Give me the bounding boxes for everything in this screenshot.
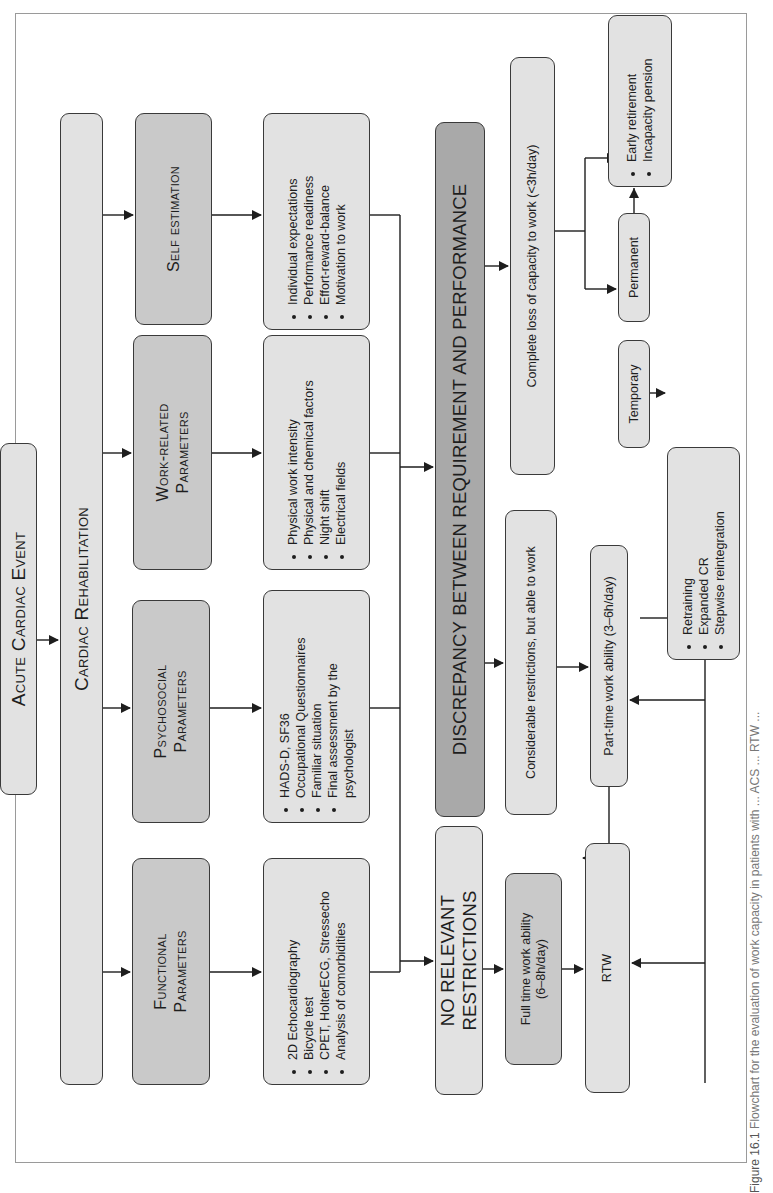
cardiac-rehabilitation-box: Cardiac Rehabilitation xyxy=(60,113,103,1085)
permanent-box: Permanent xyxy=(618,213,650,322)
list-item: Physical work intensity xyxy=(285,380,301,545)
list-item: Stepwise reintegration xyxy=(712,511,728,635)
reintegration-list: Retraining Expanded CR Stepwise reintegr… xyxy=(680,511,728,649)
no-relevant-restrictions-box: No relevant restrictions xyxy=(435,826,483,1095)
work-related-parameters-box: Work-related Parameters xyxy=(133,335,212,570)
flowchart-stage: Acute Cardiac Event Cardiac Rehabilitati… xyxy=(0,0,773,1193)
list-item: Bicycle test xyxy=(301,891,317,1060)
part-time-work-ability-box: Part-time work ability (3–6h/day) xyxy=(590,545,628,787)
discrepancy-box: Discrepancy between requirement and perf… xyxy=(435,122,485,817)
complete-loss-box: Complete loss of capacity to work (<3h/d… xyxy=(510,57,555,475)
list-item: HADS-D, SF36 xyxy=(277,591,293,798)
list-item: Early retirement xyxy=(624,58,640,162)
self-estimation-list-box: Individual expectations Performance read… xyxy=(263,113,370,330)
functional-title-line2: Parameters xyxy=(171,930,191,1012)
psychosocial-title-line2: Parameters xyxy=(171,670,191,752)
figure-label: Figure 16.1 xyxy=(748,1132,762,1193)
list-item: 2D Echocardiography xyxy=(285,891,301,1060)
psychosocial-list-box: HADS-D, SF36 Occupational Questionnaires… xyxy=(263,590,370,823)
list-item: Effort-reward-balance xyxy=(317,176,333,305)
work-related-list-box: Physical work intensity Physical and che… xyxy=(263,335,370,570)
full-time-line1: Full time work ability xyxy=(519,913,534,1026)
functional-list: 2D Echocardiography Bicycle test CPET, H… xyxy=(285,891,349,1074)
list-item: Individual expectations xyxy=(285,176,301,305)
list-item: Performance readiness xyxy=(301,176,317,305)
self-estimation-box: Self estimation xyxy=(135,113,212,325)
figure-caption: Figure 16.1 Flowchart for the evaluation… xyxy=(748,0,762,1193)
list-item: Retraining xyxy=(680,511,696,635)
list-item: Incapacity pension xyxy=(640,58,656,162)
temporary-box: Temporary xyxy=(618,340,650,448)
list-item: Physical and chemical factors xyxy=(301,380,317,545)
psychosocial-title-line1: Psychosocial xyxy=(151,665,171,759)
list-item: Expanded CR xyxy=(696,511,712,635)
work-related-title-line2: Parameters xyxy=(173,411,193,493)
figure-caption-text: Flowchart for the evaluation of work cap… xyxy=(748,712,762,1129)
self-estimation-list: Individual expectations Performance read… xyxy=(285,176,349,319)
acute-cardiac-event-box: Acute Cardiac Event xyxy=(0,443,37,795)
list-item: Motivation to work xyxy=(333,176,349,305)
rtw-box: RTW xyxy=(585,843,630,1093)
list-item: Electrical fields xyxy=(333,380,349,545)
work-related-title-line1: Work-related xyxy=(153,404,173,502)
work-related-list: Physical work intensity Physical and che… xyxy=(285,380,349,559)
list-item: Final assessment by the psychologist xyxy=(325,591,357,798)
functional-parameters-box: Functional Parameters xyxy=(132,858,210,1085)
full-time-work-ability-box: Full time work ability (6–8h/day) xyxy=(505,873,562,1065)
considerable-restrictions-box: Considerable restrictions, but able to w… xyxy=(505,510,557,815)
list-item: Familiar situation xyxy=(309,591,325,798)
list-item: Occupational Questionnaires xyxy=(293,591,309,798)
full-time-line2: (6–8h/day) xyxy=(534,939,549,999)
psychosocial-list: HADS-D, SF36 Occupational Questionnaires… xyxy=(277,591,357,812)
list-item: Analysis of comorbidities xyxy=(333,891,349,1060)
functional-title-line1: Functional xyxy=(151,933,171,1009)
retirement-box: Early retirement Incapacity pension xyxy=(608,15,672,187)
retirement-list: Early retirement Incapacity pension xyxy=(624,58,656,176)
functional-list-box: 2D Echocardiography Bicycle test CPET, H… xyxy=(263,858,370,1085)
psychosocial-parameters-box: Psychosocial Parameters xyxy=(132,600,210,823)
reintegration-box: Retraining Expanded CR Stepwise reintegr… xyxy=(667,447,740,660)
list-item: Night shift xyxy=(317,380,333,545)
list-item: CPET, HolterECG, Stressecho xyxy=(317,891,333,1060)
